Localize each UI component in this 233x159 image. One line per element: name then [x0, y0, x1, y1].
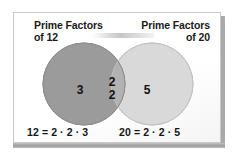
region-label-intersection: 2 2: [101, 76, 123, 102]
figure-card: Prime Factors of 12 Prime Factors of 20: [13, 12, 221, 143]
equation-right: 20 = 2 · 2 · 5: [119, 126, 180, 138]
figure-base-bar: [13, 143, 225, 148]
region-label-left-only: 3: [69, 84, 91, 97]
equation-left: 12 = 2 · 2 · 3: [27, 126, 88, 138]
region-label-intersection-2: 2: [101, 89, 123, 102]
region-label-right-only: 5: [136, 84, 158, 97]
venn-diagram-figure: Prime Factors of 12 Prime Factors of 20: [0, 0, 233, 159]
venn-circles-area: 3 2 2 5: [14, 13, 221, 143]
